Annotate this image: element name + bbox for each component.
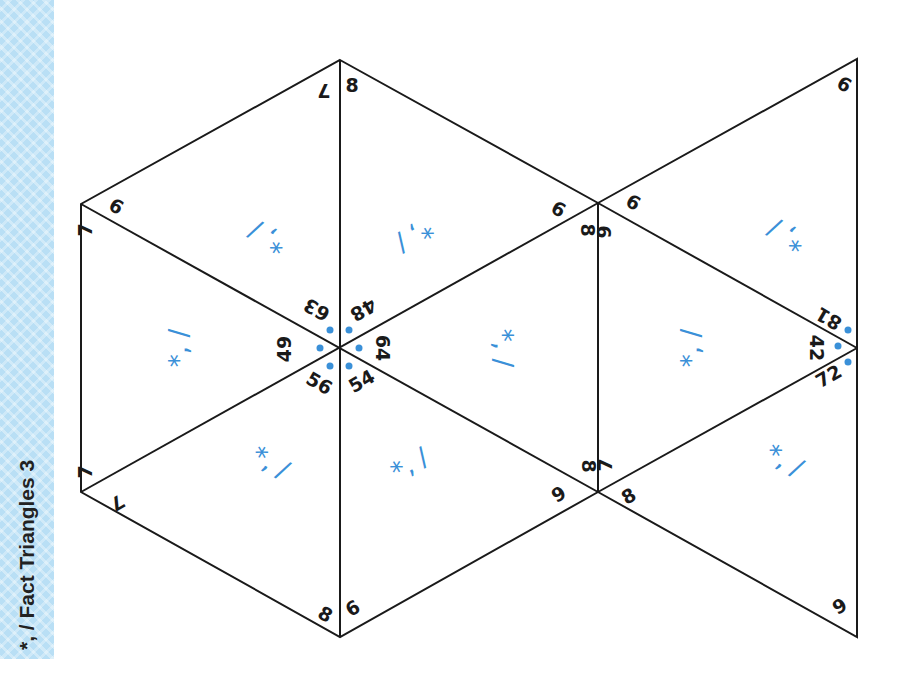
operation-label: *, /: [762, 213, 810, 258]
product-label: 81: [812, 303, 846, 335]
product-label: 64: [372, 335, 394, 361]
center-dots: [317, 327, 852, 370]
factor-label: 7: [74, 223, 96, 236]
triangle-lines: [81, 59, 857, 637]
factor-label: 6: [105, 193, 127, 219]
operation-label: *, /: [390, 213, 438, 258]
product-label: 56: [303, 367, 337, 399]
operation-label: *, /: [164, 329, 194, 368]
factor-label: 7: [594, 458, 616, 471]
operation-label: *, /: [385, 442, 433, 487]
factor-label: 8: [314, 601, 336, 627]
factor-label: 7: [74, 465, 96, 478]
product-label: 63: [300, 294, 334, 326]
product-label: 48: [347, 294, 381, 326]
factor-label: 7: [106, 490, 128, 516]
factor-label: 6: [622, 189, 644, 215]
operation-label: *, /: [760, 438, 808, 483]
operation-label: *, /: [246, 440, 294, 485]
product-label: 54: [345, 365, 379, 397]
operation-label: *, /: [243, 215, 291, 260]
factor-label: 6: [341, 595, 363, 621]
product-label: 49: [273, 336, 295, 362]
product-label: 72: [812, 360, 846, 392]
factor-label: 9: [593, 225, 615, 238]
factor-label: 9: [828, 593, 850, 619]
factor-label: 9: [547, 481, 569, 507]
operation-label: *, /: [488, 329, 518, 368]
factor-label: 8: [345, 74, 358, 96]
fact-triangles-diagram: 7 8 6 7 9 8 7 7 8 9 8 6 63 48 64 54 56 4…: [0, 0, 911, 684]
factor-label: 9: [547, 196, 569, 222]
product-label: 42: [806, 335, 828, 361]
operation-label: *, /: [676, 329, 706, 368]
factor-label: 6: [833, 71, 855, 97]
factor-label: 7: [317, 80, 330, 102]
